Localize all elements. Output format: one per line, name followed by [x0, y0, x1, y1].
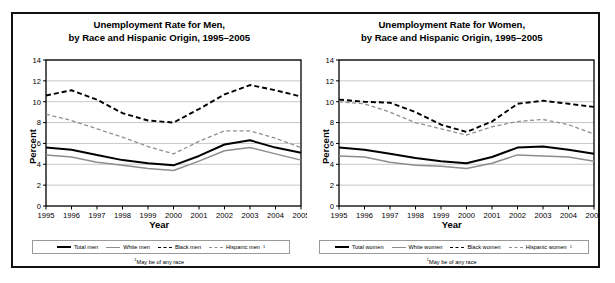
legend-line-solid-gray-icon	[392, 247, 406, 248]
legend-item-total-women[interactable]: Total women	[335, 244, 383, 250]
plot-frame	[46, 60, 301, 206]
y-tick-label-4: 4	[329, 160, 333, 169]
y-tick-label-14: 14	[325, 56, 333, 65]
legend-line-dashed-gray-icon	[209, 247, 223, 248]
legend-label-black-men: Black men	[175, 244, 201, 250]
legend-item-white-men[interactable]: White men	[106, 244, 150, 250]
footnote-women: 1May be of any race	[306, 259, 599, 265]
x-axis-label-men: Year	[13, 219, 306, 230]
y-tick-label-4: 4	[37, 160, 41, 169]
legend-label-white-men: White men	[123, 244, 150, 250]
series-line-total-women	[339, 147, 594, 164]
y-tick-label-2: 2	[37, 181, 41, 190]
legend-line-solid-black-icon	[335, 246, 349, 248]
legend-label-white-women: White women	[409, 244, 443, 250]
series-line-total-men	[46, 140, 301, 165]
legend-item-total-men[interactable]: Total men	[57, 244, 98, 250]
legend-line-solid-gray-icon	[106, 247, 120, 248]
y-tick-label-8: 8	[329, 118, 333, 127]
footnote-text-women: May be of any race	[429, 259, 477, 265]
legend-label-total-men: Total men	[74, 244, 98, 250]
y-tick-label-6: 6	[329, 139, 333, 148]
legend-item-black-women[interactable]: Black women	[450, 244, 500, 250]
legend-men: Total men White men Black men Hispanic m…	[32, 240, 290, 254]
y-tick-label-0: 0	[37, 202, 41, 211]
y-tick-label-2: 2	[329, 181, 333, 190]
series-line-hispanic-women	[339, 102, 594, 135]
y-tick-label-12: 12	[33, 77, 41, 86]
legend-line-solid-black-icon	[57, 246, 71, 248]
legend-label-total-women: Total women	[352, 244, 383, 250]
legend-item-black-men[interactable]: Black men	[158, 244, 201, 250]
footnote-men: 1May be of any race	[13, 259, 306, 265]
legend-item-hispanic-women[interactable]: Hispanic women1	[509, 244, 572, 250]
y-tick-label-0: 0	[329, 202, 333, 211]
y-tick-label-14: 14	[33, 56, 41, 65]
y-tick-label-8: 8	[37, 118, 41, 127]
legend-line-dashed-black-icon	[158, 247, 172, 248]
legend-label-hispanic-men: Hispanic men	[226, 244, 260, 250]
legend-line-dashed-black-icon	[450, 247, 464, 248]
legend-women: Total women White women Black women Hisp…	[319, 240, 589, 254]
series-line-black-women	[339, 100, 594, 132]
figure-frame: Unemployment Rate for Men, by Race and H…	[11, 12, 600, 268]
legend-item-hispanic-men[interactable]: Hispanic men1	[209, 244, 265, 250]
y-tick-label-12: 12	[325, 77, 333, 86]
series-line-black-men	[46, 85, 301, 123]
series-line-hispanic-men	[46, 114, 301, 154]
legend-label-hispanic-women: Hispanic women	[526, 244, 567, 250]
legend-label-black-women: Black women	[467, 244, 500, 250]
series-line-white-men	[46, 148, 301, 171]
footnote-text-men: May be of any race	[137, 259, 185, 265]
plot-area-women: 0246810121419951996199719981999200020012…	[306, 14, 600, 270]
plot-frame	[339, 60, 594, 206]
legend-line-dashed-gray-icon	[509, 247, 523, 248]
series-line-white-women	[339, 155, 594, 169]
panel-women: Unemployment Rate for Women, by Race and…	[306, 14, 599, 266]
y-tick-label-10: 10	[325, 98, 333, 107]
y-tick-label-10: 10	[33, 98, 41, 107]
x-axis-label-women: Year	[306, 219, 599, 230]
plot-area-men: 0246810121419951996199719981999200020012…	[13, 14, 307, 270]
panel-men: Unemployment Rate for Men, by Race and H…	[13, 14, 306, 266]
legend-item-white-women[interactable]: White women	[392, 244, 443, 250]
y-tick-label-6: 6	[37, 139, 41, 148]
